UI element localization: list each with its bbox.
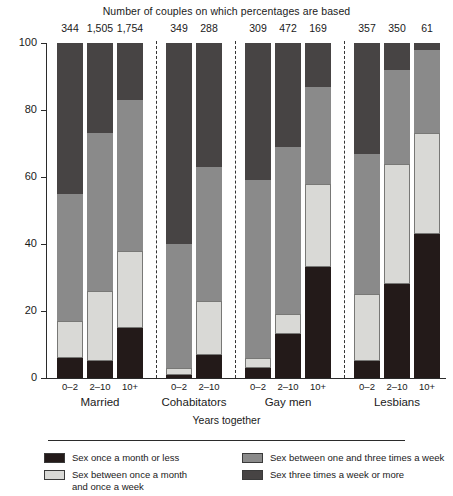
bar-segment[interactable] <box>57 358 83 378</box>
bar-segment[interactable] <box>354 294 380 361</box>
bar-segment[interactable] <box>245 180 271 358</box>
bar-segment[interactable] <box>354 361 380 378</box>
chart-top-title: Number of couples on which percentages a… <box>0 5 453 17</box>
bar-segment[interactable] <box>196 43 222 167</box>
bar-segment[interactable] <box>384 43 410 70</box>
x-axis-tick-label: 2–10 <box>182 381 236 392</box>
bar-segment[interactable] <box>384 70 410 164</box>
y-axis-tick <box>41 311 46 312</box>
bar-segment[interactable] <box>305 184 331 268</box>
bar-segment[interactable] <box>245 43 271 180</box>
x-axis-group-label: Lesbians <box>347 396 447 408</box>
bar-segment[interactable] <box>384 164 410 285</box>
y-axis-line <box>46 43 47 378</box>
bar-segment[interactable] <box>87 133 113 290</box>
y-axis-tick-label: 20 <box>5 304 37 316</box>
legend-swatch-icon <box>44 453 65 463</box>
bar-segment[interactable] <box>414 43 440 50</box>
bar-segment[interactable] <box>166 43 192 244</box>
y-axis-tick-label: 40 <box>5 237 37 249</box>
x-axis-group-label: Cohabitators <box>144 396 244 408</box>
x-axis-tick-label: 10+ <box>291 381 345 392</box>
plot-area <box>46 43 446 378</box>
sample-size-label: 288 <box>182 22 236 34</box>
y-axis-tick-label: 0 <box>5 371 37 383</box>
group-separator <box>156 41 157 378</box>
sample-size-label: 61 <box>400 22 453 34</box>
bar-segment[interactable] <box>196 355 222 378</box>
bar-segment[interactable] <box>166 368 192 375</box>
x-axis-tick-label: 10+ <box>400 381 453 392</box>
bar-segment[interactable] <box>305 267 331 378</box>
legend-item-label: Sex between one and three times a week <box>270 452 452 464</box>
group-separator <box>344 41 345 378</box>
bar-segment[interactable] <box>275 43 301 147</box>
bar-segment[interactable] <box>245 368 271 378</box>
bar-segment[interactable] <box>275 314 301 334</box>
legend-item-label: Sex three times a week or more <box>270 469 452 481</box>
sample-size-label: 169 <box>291 22 345 34</box>
x-axis-line <box>46 378 446 379</box>
y-axis-tick <box>41 177 46 178</box>
bar-segment[interactable] <box>245 358 271 368</box>
bar-segment[interactable] <box>414 133 440 234</box>
bar-segment[interactable] <box>384 284 410 378</box>
y-axis-tick <box>41 110 46 111</box>
bar-segment[interactable] <box>414 234 440 378</box>
y-axis-tick-label: 100 <box>5 36 37 48</box>
legend-item-label-line1: Sex between once a month <box>72 469 244 481</box>
legend-item: Sex between once a month and once a week <box>44 469 244 492</box>
bar-segment[interactable] <box>305 43 331 87</box>
legend-swatch-icon <box>242 470 263 480</box>
legend-column-left: Sex once a month or less Sex between onc… <box>44 452 244 496</box>
legend-divider <box>48 440 405 441</box>
bar-segment[interactable] <box>57 43 83 194</box>
bar-segment[interactable] <box>166 244 192 368</box>
sample-size-label: 1,754 <box>103 22 157 34</box>
y-axis-tick <box>41 43 46 44</box>
group-separator <box>235 41 236 378</box>
bar-segment[interactable] <box>87 291 113 361</box>
bar-segment[interactable] <box>275 334 301 378</box>
bar-segment[interactable] <box>414 50 440 134</box>
bar-segment[interactable] <box>354 43 380 154</box>
chart-figure: Number of couples on which percentages a… <box>0 0 453 496</box>
y-axis-tick-label: 60 <box>5 170 37 182</box>
x-axis-title: Years together <box>0 414 453 426</box>
bar-segment[interactable] <box>87 361 113 378</box>
legend-item-label: Sex once a month or less <box>72 452 244 464</box>
x-axis-group-label: Gay men <box>238 396 338 408</box>
legend-column-right: Sex between one and three times a week S… <box>242 452 452 486</box>
y-axis-tick <box>41 244 46 245</box>
bar-segment[interactable] <box>117 100 143 251</box>
y-axis-tick-label: 80 <box>5 103 37 115</box>
bar-segment[interactable] <box>166 375 192 378</box>
bar-segment[interactable] <box>87 43 113 133</box>
bar-segment[interactable] <box>57 194 83 321</box>
legend-swatch-icon <box>242 453 263 463</box>
bar-segment[interactable] <box>196 167 222 301</box>
bar-segment[interactable] <box>275 147 301 315</box>
bar-segment[interactable] <box>57 321 83 358</box>
y-axis-tick <box>41 378 46 379</box>
bar-segment[interactable] <box>117 43 143 100</box>
legend-item: Sex between one and three times a week <box>242 452 452 464</box>
bar-segment[interactable] <box>117 328 143 378</box>
bar-segment[interactable] <box>196 301 222 355</box>
legend-item: Sex three times a week or more <box>242 469 452 481</box>
bar-segment[interactable] <box>354 154 380 295</box>
x-axis-tick-label: 10+ <box>103 381 157 392</box>
legend-item: Sex once a month or less <box>44 452 244 464</box>
x-axis-group-label: Married <box>50 396 150 408</box>
bar-segment[interactable] <box>305 87 331 184</box>
legend-swatch-icon <box>44 470 65 480</box>
bar-segment[interactable] <box>117 251 143 328</box>
legend-item-label-line2: and once a week <box>72 481 244 493</box>
